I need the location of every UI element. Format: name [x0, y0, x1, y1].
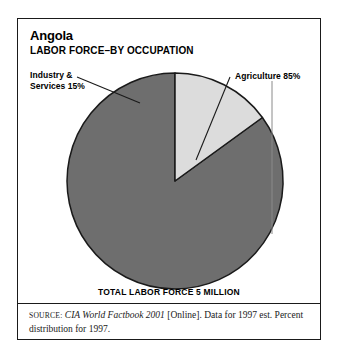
source-divider — [18, 303, 320, 304]
pie-slices — [67, 73, 283, 289]
source-publication: CIA World Factbook 2001 — [65, 310, 165, 320]
source-note: Source: CIA World Factbook 2001 [Online]… — [29, 309, 310, 335]
source-label: Source: — [29, 311, 62, 320]
figure-frame: Angola LABOR FORCE–BY OCCUPATION Industr… — [17, 18, 321, 340]
total-labor-force-caption: TOTAL LABOR FORCE 5 MILLION — [18, 287, 320, 297]
